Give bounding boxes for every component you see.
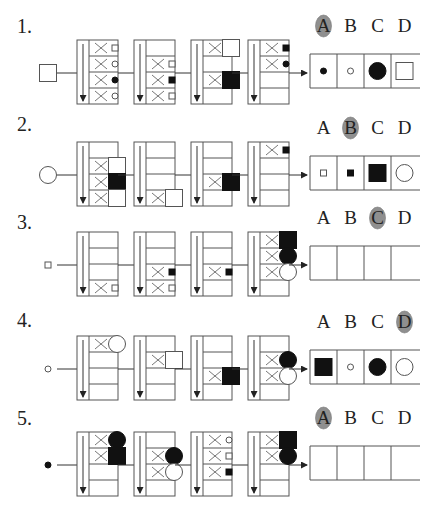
option-cell-b[interactable]	[337, 246, 364, 280]
hollow-tiny-square-icon	[112, 285, 118, 291]
hollow-large-circle-icon	[280, 264, 297, 281]
option-b-solid-square-icon	[348, 170, 354, 176]
filter-panel-2	[134, 232, 175, 296]
hollow-large-square-icon	[109, 158, 126, 175]
hollow-tiny-square-icon	[169, 285, 175, 291]
option-letter-d[interactable]: D	[398, 407, 412, 428]
hollow-large-circle-icon	[280, 368, 297, 385]
hollow-tiny-circle-icon	[112, 61, 118, 67]
option-letter-c[interactable]: C	[371, 117, 384, 138]
solid-large-square-icon	[280, 432, 297, 449]
filter-panel-1	[77, 142, 126, 207]
filter-panel-3	[191, 40, 240, 105]
option-letter-b[interactable]: B	[344, 207, 357, 228]
question-2: 2.ABCD	[17, 113, 420, 207]
filter-panel-4	[248, 432, 297, 497]
option-letter-d[interactable]: D	[398, 15, 412, 36]
option-c-solid-circle-icon	[369, 63, 386, 80]
filter-panel-3	[191, 232, 232, 296]
question-1: 1.ABCD	[17, 15, 420, 104]
option-cell-c[interactable]	[364, 246, 391, 280]
question-number: 4.	[17, 309, 32, 331]
option-letter-d[interactable]: D	[398, 311, 412, 332]
hollow-large-square-icon	[223, 40, 240, 57]
option-cell-b[interactable]	[337, 446, 364, 480]
option-letter-b[interactable]: B	[344, 311, 357, 332]
option-letter-c[interactable]: C	[371, 15, 384, 36]
option-b-hollow-circle-icon	[348, 68, 354, 74]
option-letter-c[interactable]: C	[371, 311, 384, 332]
option-c-solid-square-icon	[369, 165, 386, 182]
option-letter-b[interactable]: B	[344, 407, 357, 428]
option-letter-b[interactable]: B	[344, 15, 357, 36]
solid-tiny-square-icon	[283, 45, 289, 51]
question-number: 5.	[17, 407, 32, 429]
filter-panel-1	[77, 336, 126, 401]
solid-large-circle-icon	[166, 448, 183, 465]
solid-tiny-circle-icon	[283, 61, 289, 67]
hollow-tiny-circle-icon	[112, 93, 118, 99]
filter-panel-2	[134, 142, 183, 207]
hollow-tiny-square-icon	[226, 453, 232, 459]
filter-panel-4	[248, 336, 297, 400]
hollow-tiny-circle-icon	[226, 437, 232, 443]
question-number: 3.	[17, 211, 32, 233]
option-b-hollow-circle-icon	[348, 364, 354, 370]
option-letter-a[interactable]: A	[317, 207, 331, 228]
option-cell-d[interactable]	[391, 246, 418, 280]
answer-options: ABCD	[310, 311, 420, 384]
filter-panel-4	[248, 40, 289, 104]
question-number: 1.	[17, 15, 32, 37]
solid-large-circle-icon	[280, 448, 297, 465]
answer-options: ABCD	[310, 207, 420, 280]
option-letter-c[interactable]: C	[371, 207, 384, 228]
solid-large-circle-icon	[280, 248, 297, 265]
solid-tiny-circle-icon	[112, 77, 118, 83]
hollow-tiny-square-icon	[169, 93, 175, 99]
solid-tiny-square-icon	[283, 147, 289, 153]
solid-tiny-square-icon	[226, 469, 232, 475]
option-letter-b[interactable]: B	[344, 117, 357, 138]
filter-panel-2	[134, 40, 175, 104]
option-cell-a[interactable]	[310, 246, 337, 280]
solid-large-circle-icon	[280, 352, 297, 369]
solid-large-square-icon	[223, 368, 240, 385]
filter-panel-4	[248, 232, 297, 297]
option-cell-c[interactable]	[364, 446, 391, 480]
option-d-hollow-square-icon	[396, 63, 413, 80]
solid-large-circle-icon	[109, 432, 126, 449]
input-hollow-square-icon	[45, 262, 51, 268]
solid-tiny-square-icon	[169, 77, 175, 83]
option-letter-a[interactable]: A	[317, 117, 331, 138]
option-d-hollow-circle-icon	[396, 165, 413, 182]
filter-panel-3	[191, 336, 240, 400]
filter-panel-3	[191, 142, 240, 206]
option-cell-a[interactable]	[310, 446, 337, 480]
solid-tiny-square-icon	[226, 269, 232, 275]
option-cell-d[interactable]	[391, 446, 418, 480]
filter-panel-1	[77, 432, 126, 497]
option-letter-d[interactable]: D	[398, 117, 412, 138]
answer-options: ABCD	[310, 117, 420, 190]
hollow-large-circle-icon	[109, 336, 126, 353]
option-a-solid-square-icon	[315, 359, 332, 376]
filter-panel-1	[77, 40, 118, 104]
question-number: 2.	[17, 113, 32, 135]
solid-large-square-icon	[280, 232, 297, 249]
filter-panel-3	[191, 432, 232, 496]
hollow-tiny-square-icon	[169, 61, 175, 67]
question-5: 5.ABCD	[17, 407, 420, 496]
option-letter-d[interactable]: D	[398, 207, 412, 228]
solid-large-square-icon	[109, 448, 126, 465]
filter-panel-1	[77, 232, 118, 296]
solid-tiny-square-icon	[169, 269, 175, 275]
option-letter-c[interactable]: C	[371, 407, 384, 428]
option-letter-a[interactable]: A	[317, 311, 331, 332]
solid-large-square-icon	[223, 72, 240, 89]
hollow-large-square-icon	[166, 352, 183, 369]
option-letter-a[interactable]: A	[317, 407, 331, 428]
option-letter-a[interactable]: A	[317, 15, 331, 36]
option-d-hollow-circle-icon	[396, 359, 413, 376]
input-hollow-square-icon	[40, 65, 57, 82]
hollow-large-square-icon	[166, 190, 183, 207]
